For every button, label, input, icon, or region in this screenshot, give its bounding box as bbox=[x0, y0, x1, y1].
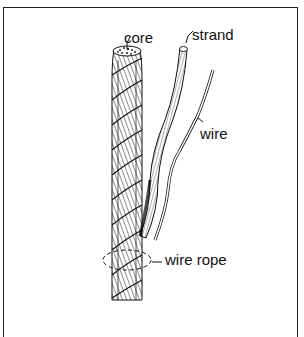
wire-rope-body bbox=[112, 50, 142, 300]
strand-label: strand bbox=[192, 27, 234, 42]
wire-label: wire bbox=[200, 126, 228, 141]
core-label: core bbox=[124, 30, 153, 45]
wire bbox=[155, 70, 213, 240]
wire-rope-label: wire rope bbox=[165, 252, 227, 267]
